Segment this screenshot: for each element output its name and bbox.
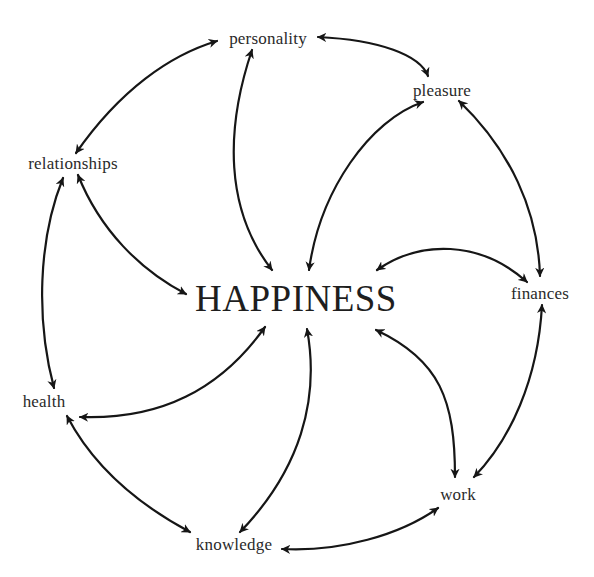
node-finances: finances (511, 285, 569, 302)
arrow-personality-happiness (234, 50, 272, 270)
arrow-relationships-happiness (78, 175, 186, 294)
arrow-finances-happiness (377, 249, 527, 282)
node-work: work (440, 486, 476, 503)
arrow-work-happiness (376, 330, 455, 477)
arrow-work-knowledge (282, 508, 438, 549)
node-personality: personality (229, 30, 307, 47)
arrow-knowledge-happiness (240, 329, 311, 532)
happiness-diagram: HAPPINESS personality pleasure finances … (0, 0, 594, 577)
node-knowledge: knowledge (196, 536, 272, 553)
arrow-pleasure-finances (459, 101, 540, 276)
center-label-happiness: HAPPINESS (195, 280, 397, 317)
arrow-knowledge-health (67, 416, 190, 532)
arrow-health-happiness (80, 327, 265, 417)
arrow-pleasure-happiness (309, 102, 423, 270)
arrow-finances-work (474, 305, 542, 477)
arrow-health-relationships (42, 178, 63, 388)
node-health: health (23, 393, 66, 410)
node-pleasure: pleasure (413, 82, 471, 99)
node-relationships: relationships (28, 155, 117, 172)
arrow-relationships-personality (76, 41, 217, 153)
arrow-personality-pleasure (318, 37, 428, 76)
